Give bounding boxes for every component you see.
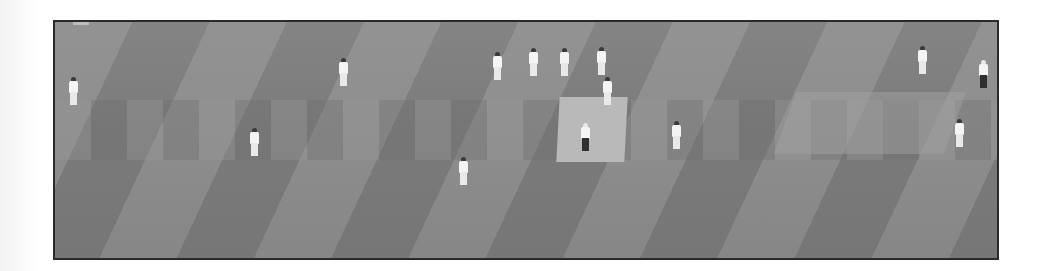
player-legs xyxy=(460,172,467,185)
player-legs xyxy=(494,67,501,80)
player-legs xyxy=(604,92,611,105)
player-legs xyxy=(530,63,537,76)
player-legs xyxy=(582,138,589,151)
player-legs xyxy=(598,62,605,75)
player-legs xyxy=(980,75,987,88)
player-legs xyxy=(956,134,963,147)
player-legs xyxy=(340,73,347,86)
page xyxy=(0,0,1058,271)
player-legs xyxy=(70,92,77,105)
player-legs xyxy=(251,143,258,156)
player-legs xyxy=(673,136,680,149)
cricket-photo xyxy=(53,20,999,260)
pitch xyxy=(556,97,627,162)
square-edge xyxy=(774,92,967,154)
player-legs xyxy=(919,61,926,74)
frame-marker xyxy=(73,22,89,25)
player-legs xyxy=(561,63,568,76)
